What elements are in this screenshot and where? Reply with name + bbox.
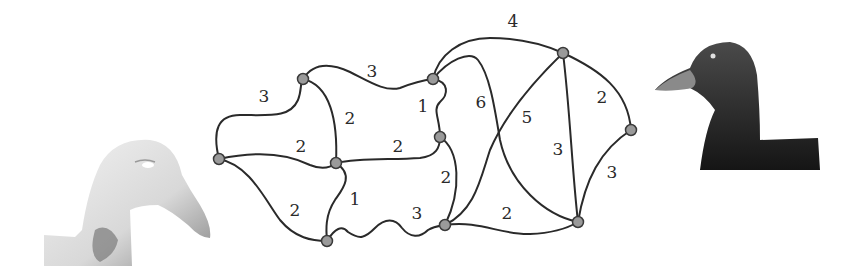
edge-weight-E-H: 4 [508, 11, 519, 31]
node-I [626, 125, 637, 136]
node-B [298, 74, 309, 85]
node-C [331, 158, 342, 169]
edge-weight-B-C: 2 [345, 108, 356, 128]
edge-C-F [336, 137, 440, 163]
edge-E-F [433, 79, 446, 137]
edge-weight-F-G: 2 [441, 167, 452, 187]
edge-G-H [445, 53, 563, 225]
edge-weight-E-J: 6 [476, 92, 487, 112]
light-duck-image [44, 140, 210, 266]
node-G [440, 220, 451, 231]
node-A [214, 154, 225, 165]
edge-weight-G-J: 2 [502, 203, 513, 223]
edge-weight-G-H: 5 [522, 107, 533, 127]
edge-H-J [563, 53, 578, 222]
edge-weight-A-D: 2 [290, 200, 301, 220]
edge-B-C [303, 79, 336, 163]
dark-duck-image [655, 42, 820, 170]
edge-weight-B-E: 3 [367, 61, 378, 81]
node-J [573, 217, 584, 228]
edge-weight-E-F: 1 [418, 96, 429, 116]
edge-G-J [445, 222, 578, 234]
edge-weight-A-C: 2 [296, 136, 307, 156]
edge-I-J [578, 130, 631, 222]
node-D [322, 236, 333, 247]
node-H [558, 48, 569, 59]
edge-D-G [327, 221, 445, 242]
node-F [435, 132, 446, 143]
edge-weight-A-B: 3 [259, 86, 270, 106]
edge-weight-H-I: 2 [597, 87, 608, 107]
edge-weight-C-F: 2 [393, 136, 404, 156]
node-E [428, 74, 439, 85]
edge-A-D [219, 159, 327, 241]
edge-weight-I-J: 3 [607, 162, 618, 182]
graph-figure: 33222121324653232 [0, 0, 865, 276]
edge-weight-C-D: 1 [350, 189, 361, 209]
edge-weight-H-J: 3 [553, 139, 564, 159]
edge-weight-D-G: 3 [412, 203, 423, 223]
graph-edges [216, 38, 631, 241]
